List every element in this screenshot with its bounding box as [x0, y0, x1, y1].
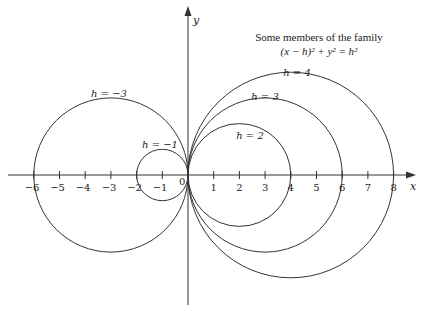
label-h-neg3: h = −3	[91, 88, 127, 99]
svg-text:7: 7	[365, 182, 371, 193]
svg-text:5: 5	[313, 182, 319, 193]
y-axis-label: y	[192, 14, 200, 27]
svg-text:8: 8	[390, 182, 396, 193]
svg-text:3: 3	[262, 182, 268, 193]
svg-text:−5: −5	[50, 182, 65, 193]
label-h-2: h = 2	[236, 130, 264, 141]
x-axis-label: x	[410, 180, 417, 193]
svg-text:−1: −1	[153, 182, 168, 193]
svg-text:1: 1	[211, 182, 217, 193]
label-h-neg1: h = −1	[142, 139, 178, 150]
svg-text:−3: −3	[102, 182, 117, 193]
svg-text:−4: −4	[76, 182, 91, 193]
figure-caption: Some members of the family (x − h)² + y²…	[244, 30, 394, 58]
label-h-4: h = 4	[283, 67, 311, 78]
svg-text:−6: −6	[25, 182, 40, 193]
caption-equation: (x − h)² + y² = h²	[244, 44, 394, 58]
svg-text:2: 2	[236, 182, 242, 193]
svg-text:4: 4	[288, 182, 294, 193]
svg-text:−2: −2	[127, 182, 142, 193]
origin-label: 0	[179, 176, 185, 187]
caption-line-1: Some members of the family	[244, 30, 394, 44]
x-tick-labels: −6 −5 −4 −3 −2 −1 1 2 3 4 5 6 7 8	[25, 182, 397, 193]
y-axis-arrow-icon	[185, 6, 192, 16]
label-h-3: h = 3	[251, 91, 279, 102]
svg-text:6: 6	[339, 182, 345, 193]
x-axis-arrow-icon	[406, 172, 416, 179]
